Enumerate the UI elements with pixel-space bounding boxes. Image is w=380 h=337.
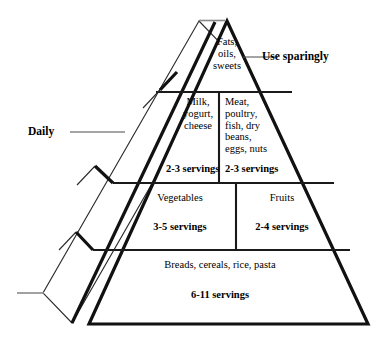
group-label-meat-poultry-fish: Meat, poultry, fish, dry beans, eggs, nu…	[221, 96, 285, 155]
connector-stub-tier2	[95, 166, 113, 183]
group-label-fats-oils-sweets: Fats, oils, sweets	[196, 36, 258, 71]
group-servings-fruits: 2-4 servings	[238, 221, 326, 233]
band-fold-mid	[77, 166, 95, 185]
callout-daily: Daily	[28, 125, 54, 138]
group-servings-milk-yogurt-cheese: 2-3 servings	[160, 163, 228, 175]
band-fold-upper	[143, 90, 160, 108]
callout-use-sparingly: Use sparingly	[262, 50, 329, 63]
connector-stub-tier3	[76, 232, 93, 250]
group-label-vegetables: Vegetables	[128, 192, 232, 204]
group-label-milk-yogurt-cheese: Milk, yogurt, cheese	[174, 96, 222, 131]
group-label-breads-cereals-rice-pasta: Breads, cereals, rice, pasta	[118, 259, 322, 271]
food-pyramid-diagram: Fats, oils, sweets Milk, yogurt, cheese …	[0, 0, 380, 337]
group-servings-vegetables: 3-5 servings	[128, 221, 232, 233]
group-label-fruits: Fruits	[238, 192, 326, 204]
group-servings-breads-cereals-rice-pasta: 6-11 servings	[118, 289, 322, 301]
group-servings-meat-poultry-fish: 2-3 servings	[221, 163, 291, 175]
